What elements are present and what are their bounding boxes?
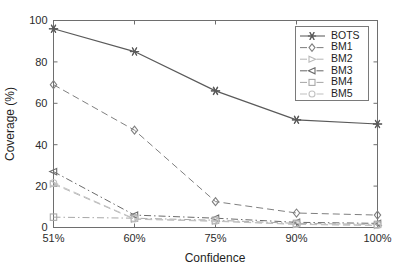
chart-canvas: 020406080100 51%60%75%90%100% Confidence…	[0, 0, 406, 269]
y-tick-label: 80	[35, 56, 47, 68]
series-line-bm1	[54, 85, 378, 215]
y-tick-label: 40	[35, 139, 47, 151]
star-marker	[292, 116, 301, 124]
legend-label: BM2	[331, 52, 353, 64]
y-tick-label: 100	[29, 14, 47, 26]
x-tick-label: 51%	[42, 232, 64, 244]
chart-legend: BOTSBM1BM2BM3BM4BM5	[296, 27, 369, 101]
x-tick-label: 75%	[204, 232, 226, 244]
x-axis-title: Confidence	[185, 251, 246, 265]
series-line-bm5	[54, 183, 378, 225]
legend-label: BM3	[331, 64, 353, 76]
star-marker	[130, 48, 139, 56]
legend-label: BM4	[331, 75, 353, 87]
x-axis-tick-labels: 51%60%75%90%100%	[42, 232, 391, 244]
y-tick-label: 20	[35, 180, 47, 192]
x-tick-label: 90%	[285, 232, 307, 244]
y-axis-title: Coverage (%)	[3, 87, 17, 161]
legend-label: BM5	[331, 87, 353, 99]
series-bm1	[50, 81, 380, 219]
x-tick-label: 60%	[123, 232, 145, 244]
legend-label: BOTS	[331, 29, 360, 41]
x-tick-label: 100%	[363, 232, 391, 244]
y-axis-tick-labels: 020406080100	[29, 14, 47, 233]
chart-figure: 020406080100 51%60%75%90%100% Confidence…	[0, 0, 406, 269]
y-tick-label: 60	[35, 97, 47, 109]
legend-label: BM1	[331, 40, 353, 52]
star-marker	[211, 87, 220, 95]
